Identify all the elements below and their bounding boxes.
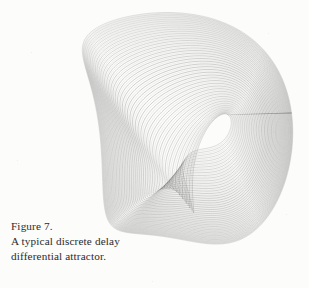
caption-line-2: differential attractor. <box>11 249 191 264</box>
trajectory-strand <box>131 71 265 203</box>
trajectory-strand <box>144 83 259 196</box>
paper-speckle <box>204 176 206 178</box>
figure-page: Figure 7. A typical discrete delay diffe… <box>0 0 309 288</box>
trajectory-strand <box>83 13 292 243</box>
figure-caption: Figure 7. A typical discrete delay diffe… <box>11 219 191 265</box>
caption-line-figure-number: Figure 7. <box>11 219 191 234</box>
paper-speckle <box>17 160 18 161</box>
trajectory-strand <box>171 107 241 192</box>
trajectory-strand <box>183 114 232 213</box>
caption-line-1: A typical discrete delay <box>11 234 191 249</box>
trajectory-strand-group <box>82 12 292 244</box>
